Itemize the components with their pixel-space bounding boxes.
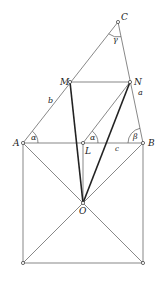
angle-label-beta: β xyxy=(132,132,138,141)
point-C xyxy=(116,20,119,23)
point-label-L: L xyxy=(84,146,91,156)
point-O xyxy=(81,201,84,204)
point-A xyxy=(21,141,24,144)
point-B xyxy=(141,141,144,144)
segment-MO xyxy=(70,82,83,203)
point-bottom-left xyxy=(21,261,24,264)
point-label-N: N xyxy=(133,77,143,87)
point-N xyxy=(128,80,131,83)
point-label-B: B xyxy=(147,138,155,148)
side-label-b: b xyxy=(48,96,53,105)
point-label-A: A xyxy=(12,138,20,148)
point-bottom-right xyxy=(141,261,144,264)
angle-label-alpha-A: α xyxy=(31,133,37,142)
side-label-c: c xyxy=(115,145,119,153)
geometry-diagram: α α β γ b a c C M N A L B O xyxy=(0,0,163,284)
point-M xyxy=(68,80,71,83)
side-label-a: a xyxy=(138,88,143,97)
angle-label-alpha-L: α xyxy=(90,133,96,142)
point-L xyxy=(81,141,84,144)
point-label-O: O xyxy=(79,206,87,216)
angle-label-gamma: γ xyxy=(113,35,118,44)
segment-NO xyxy=(83,82,130,203)
point-label-C: C xyxy=(121,12,128,22)
